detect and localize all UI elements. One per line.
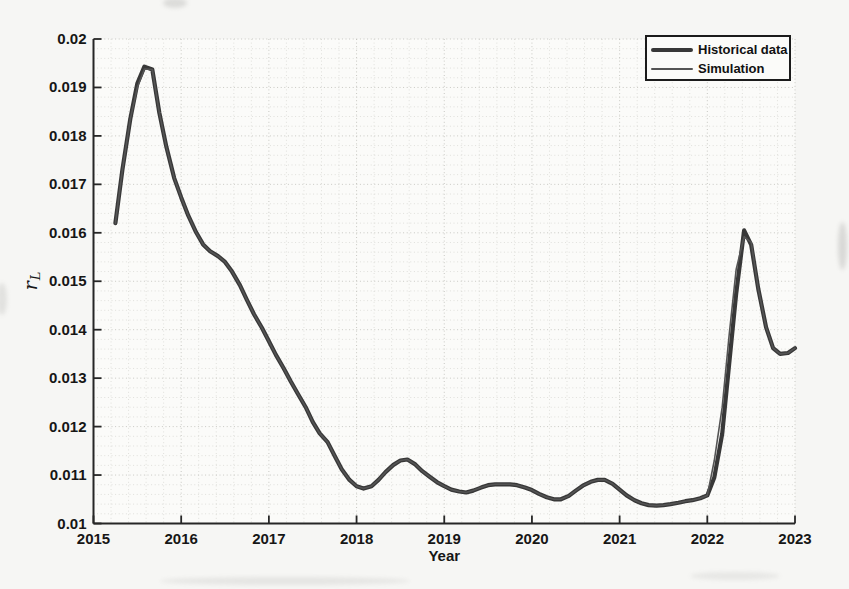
x-tick-label: 2023: [778, 530, 811, 547]
x-tick-label: 2022: [691, 530, 724, 547]
legend-label-simulation: Simulation: [698, 62, 764, 75]
simulation-line-swatch: [651, 68, 693, 70]
y-tick-label: 0.01: [57, 515, 86, 532]
legend-item-simulation: Simulation: [651, 59, 789, 78]
y-tick-label: 0.02: [57, 30, 86, 47]
historical-line-swatch: [651, 48, 693, 52]
x-tick-label: 2021: [603, 530, 636, 547]
y-axis-label: rL: [19, 272, 43, 291]
y-tick-label: 0.015: [49, 272, 87, 289]
chart-canvas: 2015201620172018201920202021202220230.01…: [0, 0, 849, 589]
y-tick-label: 0.012: [49, 418, 87, 435]
x-tick-label: 2015: [77, 530, 110, 547]
y-tick-label: 0.019: [49, 78, 87, 95]
y-tick-label: 0.011: [50, 466, 87, 483]
x-axis-label: Year: [428, 547, 460, 564]
legend-label-historical: Historical data: [698, 43, 788, 56]
y-tick-label: 0.017: [49, 175, 87, 192]
y-tick-label: 0.016: [49, 224, 87, 241]
x-tick-label: 2020: [515, 530, 548, 547]
legend-item-historical: Historical data: [651, 40, 789, 59]
y-tick-label: 0.018: [49, 127, 87, 144]
legend: Historical data Simulation: [645, 35, 791, 81]
figure: 2015201620172018201920202021202220230.01…: [0, 0, 849, 589]
y-tick-label: 0.014: [49, 321, 87, 338]
x-tick-label: 2018: [340, 530, 373, 547]
svg-text:rL: rL: [19, 272, 43, 291]
x-tick-label: 2016: [165, 530, 198, 547]
y-tick-label: 0.013: [49, 369, 87, 386]
x-tick-label: 2017: [252, 530, 285, 547]
x-tick-label: 2019: [428, 530, 461, 547]
